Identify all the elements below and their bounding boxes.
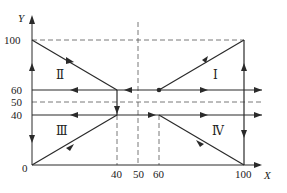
arrow-x100-up-icon — [241, 63, 247, 71]
arrow-y40-left-icon — [70, 112, 78, 118]
equilibrium-point — [157, 88, 162, 93]
arrow-y40-right-1-icon — [148, 112, 156, 118]
arrow-x40-down-icon — [114, 106, 120, 114]
dashed-guides — [32, 22, 262, 165]
region-label-2: Ⅱ — [56, 68, 64, 82]
diag-region4 — [159, 115, 244, 165]
origin-label: 0 — [22, 162, 28, 174]
phase-diagram: Y X 0 100 60 50 40 40 50 60 100 Ⅱ Ⅰ Ⅲ Ⅳ — [0, 0, 287, 193]
x-tick-100: 100 — [235, 168, 252, 180]
arrow-diag2-icon — [66, 57, 74, 64]
y-axis-label: Y — [18, 12, 26, 24]
x-axis-label: X — [263, 169, 272, 181]
x-tick-40: 40 — [111, 168, 123, 180]
y-axis-arrow-icon — [29, 15, 35, 24]
region-label-3: Ⅲ — [56, 124, 68, 138]
arrow-y60-right-2-icon — [254, 87, 262, 93]
arrow-y60-left-2-icon — [124, 87, 132, 93]
region-label-4: Ⅳ — [212, 124, 225, 138]
arrow-y60-right-1-icon — [200, 87, 208, 93]
x-tick-60: 60 — [153, 168, 165, 180]
y-tick-60: 60 — [11, 84, 23, 96]
region-labels: Ⅱ Ⅰ Ⅲ Ⅳ — [56, 68, 225, 138]
arrow-yaxis-up-icon — [29, 63, 35, 71]
arrow-diag3-icon — [66, 144, 74, 151]
region-label-1: Ⅰ — [213, 68, 218, 82]
arrow-y40-right-2-icon — [200, 112, 208, 118]
arrow-x100-down-icon — [241, 130, 247, 138]
diag-region2 — [32, 40, 117, 90]
arrow-y60-left-1-icon — [70, 87, 78, 93]
x-axis-arrow-icon — [254, 162, 262, 168]
diag-region1 — [159, 40, 244, 90]
arrow-yaxis-down-icon — [29, 135, 35, 143]
axes — [29, 15, 262, 168]
y-tick-100: 100 — [4, 34, 21, 46]
x-tick-50: 50 — [133, 168, 145, 180]
diag-region3 — [32, 115, 117, 165]
y-tick-50: 50 — [11, 96, 23, 108]
arrow-y40-right-3-icon — [254, 112, 262, 118]
y-tick-40: 40 — [11, 109, 23, 121]
